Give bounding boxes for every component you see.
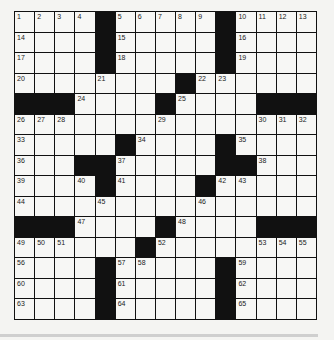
answer-cell[interactable] [297, 197, 316, 217]
answer-cell[interactable] [136, 299, 155, 319]
answer-cell[interactable] [55, 279, 74, 299]
answer-cell[interactable] [196, 258, 215, 278]
answer-cell[interactable]: 35 [236, 135, 255, 155]
answer-cell[interactable] [116, 115, 135, 135]
answer-cell[interactable] [35, 33, 54, 53]
answer-cell[interactable] [75, 74, 94, 94]
answer-cell[interactable] [75, 197, 94, 217]
answer-cell[interactable]: 41 [116, 176, 135, 196]
answer-cell[interactable] [35, 279, 54, 299]
answer-cell[interactable] [236, 217, 255, 237]
answer-cell[interactable] [116, 238, 135, 258]
answer-cell[interactable]: 2 [35, 12, 54, 32]
answer-cell[interactable] [136, 33, 155, 53]
answer-cell[interactable]: 6 [136, 12, 155, 32]
answer-cell[interactable] [136, 94, 155, 114]
answer-cell[interactable]: 60 [15, 279, 34, 299]
answer-cell[interactable] [277, 197, 296, 217]
answer-cell[interactable]: 16 [236, 33, 255, 53]
answer-cell[interactable]: 37 [116, 156, 135, 176]
answer-cell[interactable]: 25 [176, 94, 195, 114]
answer-cell[interactable]: 40 [75, 176, 94, 196]
answer-cell[interactable] [75, 299, 94, 319]
answer-cell[interactable]: 65 [236, 299, 255, 319]
answer-cell[interactable] [96, 94, 115, 114]
answer-cell[interactable] [156, 258, 175, 278]
answer-cell[interactable] [156, 135, 175, 155]
answer-cell[interactable]: 38 [257, 156, 276, 176]
answer-cell[interactable] [216, 115, 235, 135]
answer-cell[interactable] [156, 33, 175, 53]
answer-cell[interactable] [55, 197, 74, 217]
answer-cell[interactable] [96, 217, 115, 237]
answer-cell[interactable] [75, 279, 94, 299]
answer-cell[interactable] [257, 279, 276, 299]
answer-cell[interactable]: 34 [136, 135, 155, 155]
answer-cell[interactable] [55, 33, 74, 53]
answer-cell[interactable] [216, 217, 235, 237]
answer-cell[interactable] [176, 33, 195, 53]
answer-cell[interactable] [75, 238, 94, 258]
answer-cell[interactable]: 27 [35, 115, 54, 135]
answer-cell[interactable] [196, 238, 215, 258]
answer-cell[interactable] [35, 53, 54, 73]
answer-cell[interactable] [236, 115, 255, 135]
answer-cell[interactable]: 21 [96, 74, 115, 94]
answer-cell[interactable] [176, 176, 195, 196]
answer-cell[interactable]: 3 [55, 12, 74, 32]
answer-cell[interactable] [116, 217, 135, 237]
answer-cell[interactable]: 36 [15, 156, 34, 176]
answer-cell[interactable] [216, 94, 235, 114]
answer-cell[interactable] [236, 74, 255, 94]
answer-cell[interactable]: 62 [236, 279, 255, 299]
answer-cell[interactable] [277, 279, 296, 299]
answer-cell[interactable] [136, 217, 155, 237]
answer-cell[interactable] [35, 299, 54, 319]
answer-cell[interactable] [96, 115, 115, 135]
answer-cell[interactable] [156, 176, 175, 196]
answer-cell[interactable] [257, 176, 276, 196]
answer-cell[interactable]: 11 [257, 12, 276, 32]
answer-cell[interactable] [116, 197, 135, 217]
answer-cell[interactable] [136, 156, 155, 176]
answer-cell[interactable] [35, 258, 54, 278]
answer-cell[interactable] [196, 299, 215, 319]
answer-cell[interactable]: 24 [75, 94, 94, 114]
answer-cell[interactable] [196, 279, 215, 299]
answer-cell[interactable] [216, 197, 235, 217]
answer-cell[interactable] [156, 197, 175, 217]
answer-cell[interactable]: 26 [15, 115, 34, 135]
answer-cell[interactable] [297, 176, 316, 196]
answer-cell[interactable]: 61 [116, 279, 135, 299]
answer-cell[interactable] [55, 299, 74, 319]
answer-cell[interactable]: 46 [196, 197, 215, 217]
answer-cell[interactable]: 57 [116, 258, 135, 278]
answer-cell[interactable]: 32 [297, 115, 316, 135]
answer-cell[interactable]: 7 [156, 12, 175, 32]
answer-cell[interactable] [35, 74, 54, 94]
answer-cell[interactable] [196, 53, 215, 73]
answer-cell[interactable] [96, 135, 115, 155]
answer-cell[interactable] [257, 299, 276, 319]
answer-cell[interactable] [55, 135, 74, 155]
answer-cell[interactable] [35, 135, 54, 155]
answer-cell[interactable]: 29 [156, 115, 175, 135]
answer-cell[interactable] [277, 176, 296, 196]
answer-cell[interactable] [196, 33, 215, 53]
answer-cell[interactable] [35, 156, 54, 176]
answer-cell[interactable]: 39 [15, 176, 34, 196]
answer-cell[interactable] [55, 74, 74, 94]
answer-cell[interactable]: 1 [15, 12, 34, 32]
answer-cell[interactable] [75, 53, 94, 73]
answer-cell[interactable] [156, 279, 175, 299]
answer-cell[interactable] [96, 238, 115, 258]
answer-cell[interactable]: 23 [216, 74, 235, 94]
answer-cell[interactable] [176, 238, 195, 258]
answer-cell[interactable] [176, 279, 195, 299]
answer-cell[interactable] [156, 299, 175, 319]
answer-cell[interactable] [196, 156, 215, 176]
answer-cell[interactable]: 54 [277, 238, 296, 258]
answer-cell[interactable] [277, 156, 296, 176]
answer-cell[interactable] [257, 33, 276, 53]
answer-cell[interactable]: 47 [75, 217, 94, 237]
